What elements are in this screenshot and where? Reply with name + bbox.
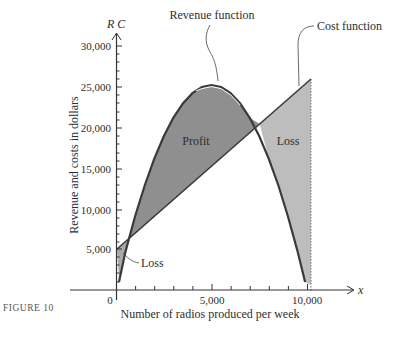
y-tick-20000: 20,000	[81, 122, 112, 134]
loss-right-label: Loss	[277, 134, 300, 148]
cost-function-label: Cost function	[317, 19, 382, 33]
x-tick-5000: 5,000	[200, 294, 225, 306]
loss-left-label: Loss	[141, 256, 164, 270]
figure-label: FIGURE 10	[3, 303, 54, 313]
y-axis-title: Revenue and costs in dollars	[67, 96, 81, 234]
revenue-function-label: Revenue function	[170, 8, 255, 22]
profit-region	[129, 85, 259, 239]
y-tick-15000: 15,000	[81, 163, 112, 175]
chart: R C x 30,000 25,000 20,000 15,000 10,000…	[0, 0, 403, 337]
loss-region-right	[260, 79, 311, 285]
cost-leader	[298, 26, 314, 86]
x-tick-0: 0	[107, 294, 113, 306]
y-tick-5000: 5,000	[86, 243, 111, 255]
x-tick-10000: 10,000	[292, 294, 323, 306]
revenue-leader	[206, 25, 218, 81]
y-axis-symbol: R C	[106, 17, 126, 31]
profit-label: Profit	[182, 134, 210, 148]
x-axis-symbol: x	[357, 283, 364, 297]
x-axis-title: Number of radios produced per week	[121, 307, 300, 321]
x-ticks	[136, 284, 308, 290]
y-tick-30000: 30,000	[81, 40, 112, 52]
y-tick-10000: 10,000	[81, 204, 112, 216]
y-tick-25000: 25,000	[81, 81, 112, 93]
